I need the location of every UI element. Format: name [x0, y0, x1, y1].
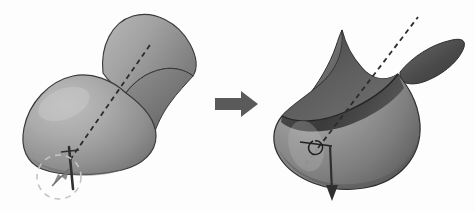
figure-root	[0, 0, 475, 211]
diagram-canvas	[0, 0, 475, 211]
